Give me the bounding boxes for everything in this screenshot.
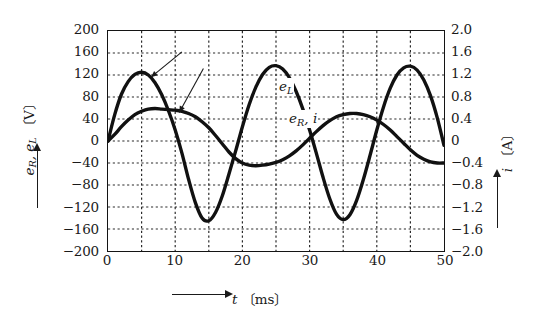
right-axis-tick-labels: 2.01.61.20.80.40−0.4−0.8−1.2−1.6−2.0 bbox=[449, 30, 489, 252]
annotation-el-subscript: L bbox=[287, 85, 293, 96]
left-tick-label: −160 bbox=[63, 223, 99, 237]
curve-el bbox=[108, 66, 444, 222]
right-tick-label: −1.6 bbox=[451, 223, 483, 237]
right-tick-label: −0.8 bbox=[451, 178, 483, 192]
right-tick-label: 0 bbox=[451, 134, 459, 148]
left-tick-label: 120 bbox=[74, 67, 99, 81]
right-tick-label: 0.4 bbox=[451, 112, 472, 126]
left-tick-label: −120 bbox=[63, 201, 99, 215]
right-tick-label: −2.0 bbox=[451, 245, 483, 259]
right-tick-label: −0.4 bbox=[451, 156, 483, 170]
right-tick-label: 1.6 bbox=[451, 45, 472, 59]
y-title-unit: 〔V〕 bbox=[21, 97, 37, 133]
waveform-figure: 20016012080400−40−80−120−160−200 2.01.61… bbox=[0, 0, 538, 323]
annotation-er-symbol: e bbox=[289, 110, 297, 126]
x-tick-label: 50 bbox=[437, 254, 454, 268]
x-tick-label: 10 bbox=[166, 254, 183, 268]
y-axis-direction-arrow bbox=[37, 150, 38, 208]
y-title-e: e bbox=[21, 168, 37, 176]
left-axis-tick-labels: 20016012080400−40−80−120−160−200 bbox=[55, 30, 101, 252]
annotation-er-tail: , i bbox=[304, 110, 317, 126]
x-axis-direction-arrow bbox=[172, 294, 226, 295]
left-tick-label: −80 bbox=[71, 178, 99, 192]
left-tick-label: 40 bbox=[82, 112, 99, 126]
right-tick-label: 1.2 bbox=[451, 67, 472, 81]
left-tick-label: 200 bbox=[74, 23, 99, 37]
curve-layer bbox=[108, 31, 444, 251]
y2-axis-direction-arrow bbox=[497, 176, 498, 228]
right-tick-label: 2.0 bbox=[451, 23, 472, 37]
left-tick-label: 80 bbox=[82, 90, 99, 104]
x-tick-label: 40 bbox=[369, 254, 386, 268]
x-title-unit: 〔ms〕 bbox=[242, 291, 288, 307]
x-tick-label: 20 bbox=[234, 254, 251, 268]
left-tick-label: 0 bbox=[91, 134, 99, 148]
annotation-leader-line-1 bbox=[179, 68, 203, 112]
y-axis-title: eR, eL 〔V〕 bbox=[18, 51, 39, 221]
plot-area: eL eR, i bbox=[107, 30, 445, 252]
left-tick-label: −40 bbox=[71, 156, 99, 170]
right-tick-label: 0.8 bbox=[451, 90, 472, 104]
curve-er bbox=[108, 109, 444, 166]
left-tick-label: 160 bbox=[74, 45, 99, 59]
y2-axis-title: i 〔A〕 bbox=[496, 90, 516, 210]
x-tick-label: 0 bbox=[103, 254, 111, 268]
x-tick-label: 30 bbox=[301, 254, 318, 268]
annotation-label-er: eR, i bbox=[288, 110, 318, 128]
annotation-label-el: eL bbox=[278, 78, 294, 96]
x-axis-title: t 〔ms〕 bbox=[232, 288, 287, 308]
left-tick-label: −200 bbox=[63, 245, 99, 259]
x-axis-tick-labels: 01020304050 bbox=[107, 254, 445, 274]
y2-title-unit: 〔A〕 bbox=[499, 128, 515, 164]
annotation-el-symbol: e bbox=[279, 78, 287, 94]
right-tick-label: −1.2 bbox=[451, 201, 483, 215]
